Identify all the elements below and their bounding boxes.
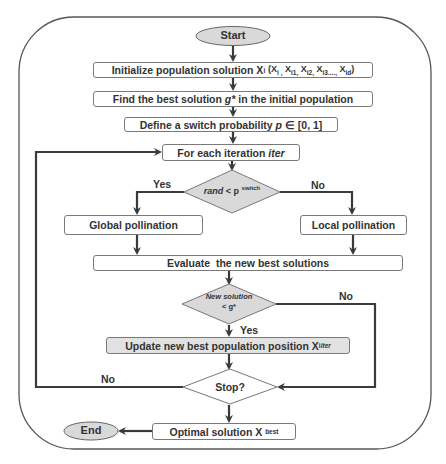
initialize-args: (Xi , Xi1, Xi2, Xi3...., Xid): [268, 64, 354, 76]
update-position-box: Update new best population position Xiit…: [106, 337, 350, 354]
evaluate-text: Evaluate the new best solutions: [167, 257, 329, 269]
for-each-iteration-box: For each iteration iter: [162, 144, 300, 161]
global-pollination-box: Global pollination: [64, 215, 203, 235]
initialize-subscript: i: [263, 67, 265, 74]
update-sup: iter: [321, 342, 331, 349]
find-best-text-pre: Find the best solution: [113, 93, 225, 105]
decision2-line2: < g*: [182, 302, 276, 312]
decision1-var: rand: [204, 186, 224, 196]
yes-label-1: Yes: [153, 178, 171, 190]
define-switch-text-post: ∈ [0, 1]: [282, 119, 322, 131]
decision-switch-label: rand < p switch: [184, 185, 280, 196]
initialize-text: Initialize population solution X: [112, 64, 264, 76]
find-best-var: g*: [225, 93, 236, 105]
define-switch-box: Define a switch probability p ∈ [0, 1]: [124, 117, 338, 132]
decision-new-solution-label: New solution < g*: [182, 292, 276, 312]
no-label-1: No: [311, 179, 325, 191]
find-best-text-post: in the initial population: [235, 93, 353, 105]
decision1-sup: switch: [242, 185, 261, 191]
optimal-sup: best: [265, 428, 278, 435]
start-label: Start: [196, 29, 270, 41]
decision1-op: < p: [223, 186, 241, 196]
define-switch-text-pre: Define a switch probability: [140, 119, 276, 131]
end-label: End: [64, 424, 118, 436]
no-label-2: No: [339, 290, 353, 302]
optimal-solution-box: Optimal solution X best: [152, 423, 296, 440]
evaluate-box: Evaluate the new best solutions: [93, 255, 403, 271]
stop-label: Stop?: [183, 381, 277, 393]
local-pollination-text: Local pollination: [312, 219, 395, 231]
update-text: Update new best population position X: [125, 340, 319, 352]
initialize-population-box: Initialize population solution Xi (Xi , …: [93, 62, 373, 78]
optimal-text: Optimal solution X: [169, 426, 265, 438]
no-label-3: No: [101, 373, 115, 385]
for-each-text-pre: For each iteration: [177, 147, 268, 159]
global-pollination-text: Global pollination: [89, 219, 178, 231]
yes-label-2: Yes: [240, 324, 258, 336]
decision2-line1: New solution: [182, 292, 276, 302]
for-each-var: iter: [268, 147, 284, 159]
local-pollination-box: Local pollination: [300, 215, 407, 235]
find-best-box: Find the best solution g* in the initial…: [93, 91, 373, 107]
